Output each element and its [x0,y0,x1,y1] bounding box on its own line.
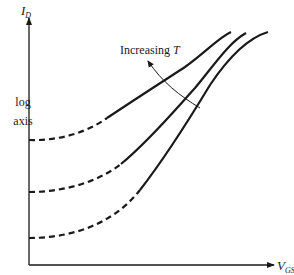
annotation-variable: T [173,43,180,57]
increasing-temperature-arrow [148,61,200,108]
y-axis-title: ID [21,3,31,20]
diagram-canvas: ID log axis VGS Increasing T [0,0,294,275]
y-axis-note-line1: log [8,93,38,112]
increasing-temperature-label: Increasing T [120,43,180,58]
y-axis-scale-note: log axis [8,93,38,131]
curve-mid-dashed-segment [29,164,121,192]
y-axis-note-line2: axis [8,112,38,131]
curve-high-dashed-segment [29,118,107,140]
annotation-text: Increasing [120,43,173,57]
plot-svg [0,0,294,275]
x-axis-symbol: V [277,258,285,273]
curve-low-temperature [29,32,268,238]
x-axis-title: VGS [277,258,294,275]
x-axis-subscript: GS [285,266,294,275]
y-axis-subscript: D [25,11,31,20]
curve-low-dashed-segment [29,190,140,238]
